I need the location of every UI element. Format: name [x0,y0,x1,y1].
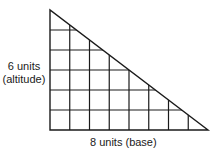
grid-lines [50,0,210,130]
altitude-label-value: 6 units [0,60,48,73]
altitude-label-caption: (altitude) [0,73,48,86]
altitude-label: 6 units (altitude) [0,60,48,86]
base-label: 8 units (base) [90,136,157,149]
